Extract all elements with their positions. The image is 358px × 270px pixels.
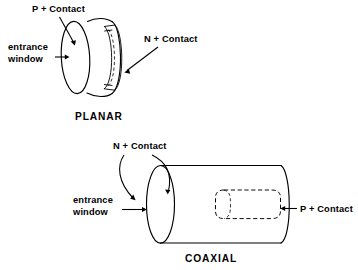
coaxial-n-contact-callout[interactable]: N + Contact: [111, 140, 177, 200]
coaxial-entrance-window-callout[interactable]: entrance window: [71, 194, 147, 218]
coaxial-p-contact-callout[interactable]: P + Contact: [280, 203, 356, 215]
planar-p-contact-callout[interactable]: P + Contact: [30, 3, 92, 46]
planar-bottom-edge: [87, 93, 112, 97]
planar-groove-inner-dashed: [108, 30, 115, 86]
planar-groove-cap-bottom: [104, 89, 115, 90]
coaxial-caption: COAXIAL: [185, 253, 237, 264]
planar-caption: PLANAR: [75, 111, 123, 122]
planar-entrance-window-arrowhead: [65, 55, 70, 60]
planar-groove-notch-bottom: [104, 85, 112, 86]
coaxial-inner-bore-dashed: [216, 190, 281, 219]
coaxial-n-contact-curved-arrow-front: [120, 155, 133, 198]
planar-p-contact-arrowhead: [71, 40, 76, 45]
coaxial-bore-outline: [224, 190, 281, 219]
coaxial-right-end-arc: [281, 166, 289, 244]
coaxial-n-contact-arrowhead-surface: [165, 189, 170, 194]
coaxial-bore-left-end-ellipse: [224, 190, 231, 219]
planar-entrance-window-hitbox[interactable]: [6, 41, 54, 65]
planar-groove-outer-left: [104, 27, 111, 89]
coaxial-p-contact-hitbox[interactable]: [298, 203, 356, 215]
planar-groove-notch-top: [105, 30, 112, 31]
coaxial-bore-left-cap: [216, 190, 225, 219]
figure-root: P + Contact entrance window N + Contact: [0, 0, 358, 270]
planar-n-contact-groove: [104, 25, 122, 90]
planar-n-contact-arrowhead: [124, 69, 130, 74]
planar-p-contact-leader-line: [60, 17, 75, 43]
coaxial-cylinder-body: [147, 166, 290, 244]
coaxial-detector-group: N + Contact entrance window P + Contact: [71, 140, 356, 264]
coaxial-n-contact-curved-arrow-surface: [152, 155, 170, 191]
planar-groove-cap-top: [105, 25, 116, 27]
detector-geometry-diagram: P + Contact entrance window N + Contact: [0, 0, 358, 270]
coaxial-n-contact-hitbox[interactable]: [111, 140, 177, 152]
planar-entrance-window-callout[interactable]: entrance window: [6, 41, 70, 65]
planar-detector-group: P + Contact entrance window N + Contact: [6, 3, 206, 122]
coaxial-entrance-window-hitbox[interactable]: [71, 194, 120, 218]
planar-p-contact-hitbox[interactable]: [30, 3, 92, 15]
planar-top-edge: [88, 18, 113, 21]
planar-n-contact-callout[interactable]: N + Contact: [124, 33, 206, 74]
coaxial-left-end-entrance-window: [147, 166, 175, 244]
planar-n-contact-leader-line: [127, 47, 158, 71]
planar-n-contact-hitbox[interactable]: [142, 33, 206, 45]
